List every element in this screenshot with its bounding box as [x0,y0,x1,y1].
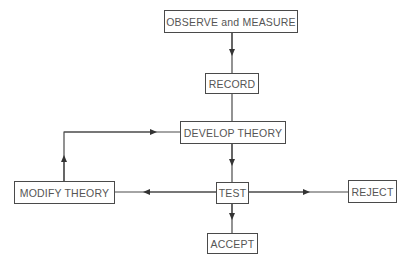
node-reject: REJECT [348,180,397,203]
node-record: RECORD [205,73,259,94]
node-test: TEST [216,182,249,204]
node-accept: ACCEPT [207,233,258,254]
edge-modify-develop [64,132,180,181]
node-modify-theory: MODIFY THEORY [14,181,115,204]
node-observe-and-measure: OBSERVE and MEASURE [164,10,298,33]
node-develop-theory: DEVELOP THEORY [180,121,286,144]
